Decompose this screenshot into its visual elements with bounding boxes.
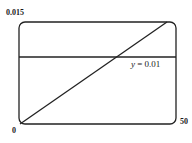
plot-area [0, 0, 192, 143]
diagonal-curve [20, 22, 167, 124]
x-min-label: 0 [12, 126, 16, 135]
x-max-label: 50 [180, 117, 188, 126]
annotation-value: = 0.01 [135, 59, 160, 69]
chart-figure: 0.015 0 50 y = 0.01 [0, 0, 192, 143]
y-max-label: 0.015 [6, 8, 24, 17]
line-annotation: y = 0.01 [131, 59, 160, 69]
